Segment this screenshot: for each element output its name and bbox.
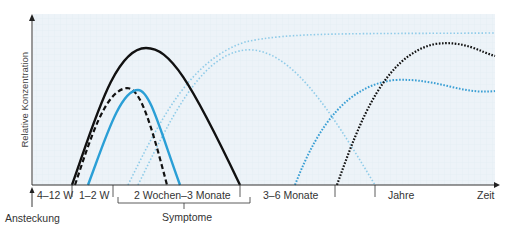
timeline-label-1-2w: 1–2 W: [79, 190, 109, 201]
timeline-label-3-6m: 3–6 Monate: [263, 190, 318, 201]
concentration-timeline-diagram: Relative Konzentration 4–12 W 1–2 W 2 Wo…: [0, 0, 511, 228]
x-axis-arrow-icon: [494, 182, 500, 188]
infection-label: Ansteckung: [5, 213, 60, 224]
timeline-label-4-12w: 4–12 W: [37, 190, 73, 201]
diagram-canvas: [0, 0, 511, 228]
timeline-label-2w-3m: 2 Wochen–3 Monate: [134, 190, 231, 201]
x-axis-label: Zeit: [477, 190, 495, 201]
infection-arrow-icon: [30, 187, 35, 193]
timeline-label-years: Jahre: [388, 190, 414, 201]
y-axis-label: Relative Konzentration: [20, 45, 30, 155]
symptoms-label: Symptome: [162, 212, 212, 223]
